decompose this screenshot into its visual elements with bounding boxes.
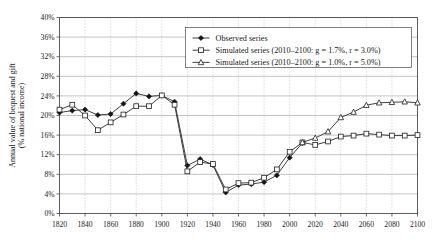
svg-text:8%: 8% <box>44 170 55 179</box>
svg-text:2060: 2060 <box>359 220 374 229</box>
legend-item[interactable]: Simulated series (2010–2100: g = 1.7%, r… <box>193 46 381 55</box>
svg-text:20%: 20% <box>41 111 56 120</box>
svg-text:2000: 2000 <box>282 220 297 229</box>
svg-text:28%: 28% <box>41 72 56 81</box>
bequest-and-gift-line-chart: Annual value of bequest and gift(% natio… <box>0 0 448 243</box>
svg-text:0%: 0% <box>44 209 55 218</box>
svg-text:1920: 1920 <box>180 220 195 229</box>
svg-text:1980: 1980 <box>256 220 271 229</box>
svg-text:1960: 1960 <box>231 220 246 229</box>
chart-legend: Observed seriesSimulated series (2010–21… <box>186 28 412 68</box>
svg-text:40%: 40% <box>41 13 56 22</box>
svg-text:Observed series: Observed series <box>216 34 268 43</box>
svg-text:2020: 2020 <box>308 220 323 229</box>
svg-text:1840: 1840 <box>77 220 92 229</box>
svg-text:Simulated series (2010–2100: g: Simulated series (2010–2100: g = 1.0%, r… <box>216 58 381 67</box>
svg-text:36%: 36% <box>41 33 56 42</box>
svg-text:1860: 1860 <box>103 220 118 229</box>
legend-item[interactable]: Simulated series (2010–2100: g = 1.0%, r… <box>193 58 381 67</box>
svg-text:1900: 1900 <box>154 220 169 229</box>
svg-text:32%: 32% <box>41 52 56 61</box>
svg-text:2040: 2040 <box>333 220 348 229</box>
svg-text:2100: 2100 <box>410 220 425 229</box>
svg-text:1880: 1880 <box>129 220 144 229</box>
chart-figure: Annual value of bequest and gift(% natio… <box>0 0 448 243</box>
svg-text:Annual value of bequest and gi: Annual value of bequest and gift <box>8 62 17 167</box>
svg-text:16%: 16% <box>41 131 56 140</box>
svg-text:4%: 4% <box>44 190 55 199</box>
svg-text:(% national income): (% national income) <box>17 83 26 149</box>
svg-text:12%: 12% <box>41 150 56 159</box>
svg-text:1940: 1940 <box>205 220 220 229</box>
svg-text:Simulated series (2010–2100: g: Simulated series (2010–2100: g = 1.7%, r… <box>216 46 381 55</box>
svg-text:24%: 24% <box>41 92 56 101</box>
svg-text:1820: 1820 <box>52 220 67 229</box>
svg-text:2080: 2080 <box>384 220 399 229</box>
